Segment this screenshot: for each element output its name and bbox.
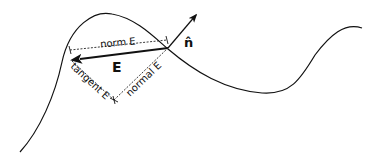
normal-e-label: normal E bbox=[124, 60, 164, 99]
norm-e-tick-right bbox=[166, 36, 168, 44]
unit-normal-label: n̂ bbox=[184, 35, 193, 50]
e-vector-arrow bbox=[80, 48, 168, 59]
diagram-canvas: norm E E n̂ tangent E normal E bbox=[0, 0, 384, 156]
e-vector-label: E bbox=[112, 59, 122, 75]
tangent-e-label: tangent E bbox=[69, 60, 112, 101]
norm-e-label: norm E bbox=[100, 35, 136, 49]
